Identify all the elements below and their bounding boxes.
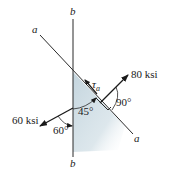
applied-stress-label: 60 ksi <box>12 114 39 126</box>
angle-label-45: 45° <box>78 105 93 117</box>
plane-a-label-top: a <box>32 23 38 35</box>
plane-b-label-top: b <box>70 5 76 17</box>
plane-b-label-bottom: b <box>70 157 76 169</box>
angle-label-90: 90° <box>116 96 131 108</box>
angle-label-60: 60° <box>53 124 68 136</box>
plane-a-label-bottom: a <box>134 132 140 144</box>
stress-diagram: b b a a 80 ksi 60 ksi τa 45° 90° 60° <box>0 0 171 178</box>
shear-stress-label: τa <box>92 78 100 93</box>
normal-stress-label: 80 ksi <box>131 68 158 80</box>
